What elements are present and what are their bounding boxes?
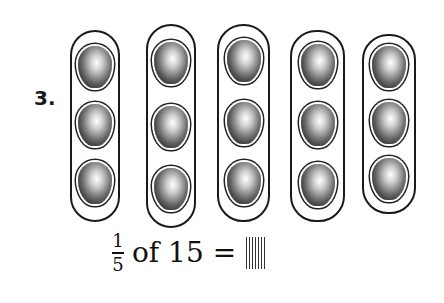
seed-icon bbox=[154, 168, 188, 210]
seed-icon bbox=[78, 162, 112, 204]
seed-icon bbox=[78, 104, 112, 146]
problem-number: 3. bbox=[34, 86, 56, 110]
seed-group-4 bbox=[290, 30, 345, 222]
equation-text: of 15 = bbox=[132, 236, 236, 269]
fraction: 1 5 bbox=[112, 232, 124, 274]
seed-group-2 bbox=[146, 24, 196, 228]
seed-icon bbox=[227, 40, 261, 82]
seed-group-3 bbox=[217, 24, 270, 222]
seed-icon bbox=[301, 104, 335, 146]
seed-icon bbox=[227, 102, 261, 144]
seed-icon bbox=[301, 164, 335, 206]
equation: 1 5 of 15 = bbox=[112, 232, 266, 274]
denominator: 5 bbox=[112, 256, 123, 274]
seed-icon bbox=[154, 106, 188, 148]
seed-icon bbox=[78, 46, 112, 88]
seed-icon bbox=[372, 158, 406, 200]
seed-icon bbox=[227, 162, 261, 204]
seed-icon bbox=[154, 42, 188, 84]
answer-blank[interactable] bbox=[246, 237, 266, 269]
seed-icon bbox=[372, 102, 406, 144]
numerator: 1 bbox=[112, 232, 123, 250]
seed-group-5 bbox=[362, 34, 416, 214]
seed-group-1 bbox=[70, 30, 120, 222]
seed-icon bbox=[372, 46, 406, 88]
seed-icon bbox=[301, 44, 335, 86]
